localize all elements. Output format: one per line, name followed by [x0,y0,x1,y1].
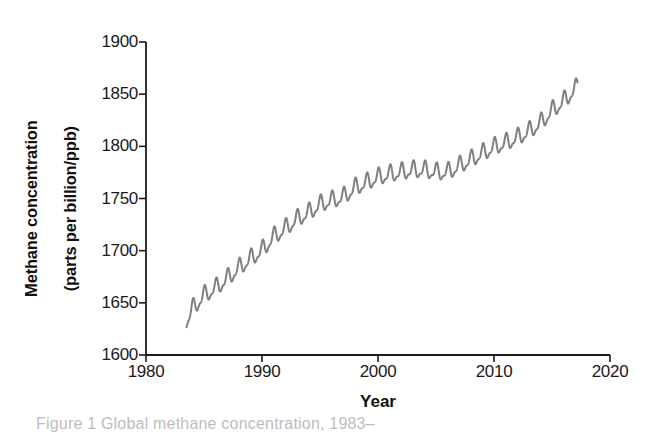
axis-lines [146,42,610,355]
figure-caption-strip: Figure 1 Global methane concentration, 1… [0,417,666,439]
methane-concentration-chart: Methane concentration (parts per billion… [0,0,666,417]
plot-canvas [0,0,666,417]
methane-data-line [187,78,578,327]
figure-page: Methane concentration (parts per billion… [0,0,666,439]
axis-ticks [139,42,610,362]
figure-caption: Figure 1 Global methane concentration, 1… [36,417,375,433]
